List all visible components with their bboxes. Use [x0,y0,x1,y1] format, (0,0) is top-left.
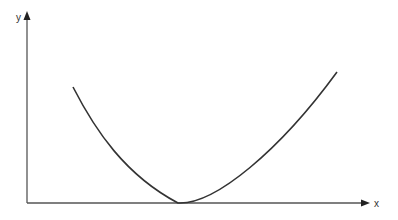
y-axis-label: y [16,12,21,23]
diagram-figure: y x [0,0,398,220]
y-axis-arrow-icon [24,11,31,20]
x-axis [27,200,370,207]
x-axis-arrow-icon [361,200,370,207]
y-axis [24,11,31,203]
x-axis-label: x [374,198,379,209]
curve [73,72,337,203]
